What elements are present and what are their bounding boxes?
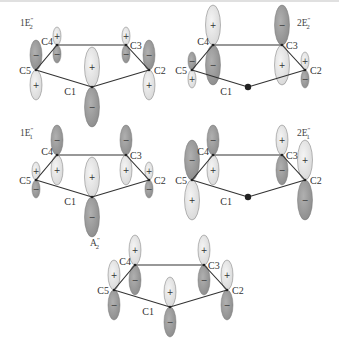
phase-sign: − <box>302 196 309 205</box>
atom-label-c1: C1 <box>64 86 76 97</box>
phase-sign: + <box>210 21 217 30</box>
phase-sign: + <box>33 81 40 90</box>
phase-sign: − <box>210 136 217 145</box>
phase-sign: − <box>224 301 231 310</box>
phase-sign: − <box>54 50 61 59</box>
atom-label-c3: C3 <box>286 150 298 161</box>
phase-sign: + <box>279 61 286 70</box>
phase-sign: + <box>224 271 231 280</box>
phase-sign: + <box>189 196 196 205</box>
atom-label-c1: C1 <box>220 86 232 97</box>
atom-label-c5: C5 <box>175 175 187 186</box>
phase-sign: − <box>146 51 153 60</box>
phase-sign: + <box>302 156 309 165</box>
phase-sign: + <box>54 32 61 41</box>
atom-c4 <box>56 44 59 47</box>
atom-label-c1: C1 <box>220 196 232 207</box>
phase-sign: + <box>123 166 130 175</box>
orbital-label: 2E″2 <box>297 16 311 30</box>
phase-sign: − <box>189 57 196 66</box>
phase-sign: − <box>89 213 96 222</box>
phase-sign: + <box>189 75 196 84</box>
phase-sign: + <box>132 246 139 255</box>
panel-1E1pp: 1E″1−+−++−+−+−C1C2C3C4C5 <box>19 125 165 237</box>
atom-c5 <box>191 69 194 72</box>
nodal-atom-c1 <box>245 84 251 90</box>
atom-c4 <box>212 154 215 157</box>
atom-label-c3: C3 <box>130 150 142 161</box>
phase-sign: + <box>302 57 309 66</box>
orbital-label: 1E″1 <box>20 126 34 140</box>
atom-c5 <box>191 179 194 182</box>
phase-sign: − <box>89 103 96 112</box>
phase-sign: − <box>279 21 286 30</box>
phase-sign: + <box>146 167 153 176</box>
atom-label-c4: C4 <box>41 36 53 47</box>
atom-c4 <box>56 154 59 157</box>
phase-sign: − <box>33 51 40 60</box>
atom-label-c5: C5 <box>19 175 31 186</box>
atom-c2 <box>226 289 229 292</box>
phase-sign: + <box>167 288 174 297</box>
phase-sign: − <box>33 185 40 194</box>
phase-sign: + <box>146 81 153 90</box>
atom-c5 <box>35 69 38 72</box>
atom-label-c3: C3 <box>130 40 142 51</box>
phase-sign: + <box>111 271 118 280</box>
phase-sign: + <box>210 166 217 175</box>
orbital-label: 1E″2 <box>20 16 34 30</box>
atom-label-c4: C4 <box>119 256 131 267</box>
phase-sign: − <box>302 75 309 84</box>
panel-2E2pp: 2E″2+−−+−++−C1C2C3C4C5 <box>175 5 321 97</box>
phase-sign: − <box>146 185 153 194</box>
orbital-label: 2E″1 <box>297 126 311 140</box>
phase-sign: − <box>201 276 208 285</box>
phase-sign: − <box>111 301 118 310</box>
phase-sign: − <box>123 50 130 59</box>
phase-sign: − <box>54 136 61 145</box>
phase-sign: + <box>54 166 61 175</box>
panel-1E2pp: 1E″2+−+−−+−++−C1C2C3C4C5 <box>19 16 165 127</box>
atom-label-c4: C4 <box>41 146 53 157</box>
atom-label-c4: C4 <box>197 146 209 157</box>
atom-c2 <box>304 69 307 72</box>
atom-c3 <box>125 154 128 157</box>
atom-label-c2: C2 <box>310 175 322 186</box>
atom-label-c5: C5 <box>19 65 31 76</box>
phase-sign: − <box>210 61 217 70</box>
phase-sign: − <box>189 156 196 165</box>
atom-c1 <box>91 86 94 89</box>
atom-label-c1: C1 <box>142 306 154 317</box>
phase-sign: + <box>279 136 286 145</box>
phase-sign: − <box>167 318 174 327</box>
atom-label-c3: C3 <box>286 40 298 51</box>
atom-label-c5: C5 <box>97 285 109 296</box>
atom-c5 <box>35 179 38 182</box>
phase-sign: + <box>201 246 208 255</box>
panel-2E1pp: 2E″1−++−−++−C1C2C3C4C5 <box>175 125 321 220</box>
atom-label-c2: C2 <box>154 65 166 76</box>
atom-c4 <box>212 44 215 47</box>
atom-c3 <box>203 264 206 267</box>
atom-c2 <box>304 179 307 182</box>
atom-c2 <box>148 69 151 72</box>
phase-sign: − <box>279 166 286 175</box>
mo-diagram: 1E″2+−+−−+−++−C1C2C3C4C52E″2+−−+−++−C1C2… <box>0 0 339 352</box>
panel-A2pp: A″2+−+−+−+−+−C1C2C3C4C5 <box>90 235 244 337</box>
atom-label-c4: C4 <box>197 36 209 47</box>
phase-sign: + <box>89 63 96 72</box>
atom-label-c1: C1 <box>64 196 76 207</box>
phase-sign: − <box>132 276 139 285</box>
atom-label-c2: C2 <box>232 285 244 296</box>
orbital-label: A″2 <box>90 236 100 250</box>
atom-c2 <box>148 179 151 182</box>
atom-c3 <box>281 154 284 157</box>
atom-c3 <box>281 44 284 47</box>
phase-sign: + <box>123 32 130 41</box>
nodal-atom-c1 <box>245 194 251 200</box>
atom-label-c2: C2 <box>154 175 166 186</box>
atom-label-c3: C3 <box>208 260 220 271</box>
atom-c1 <box>169 306 172 309</box>
phase-sign: + <box>89 173 96 182</box>
atom-label-c2: C2 <box>310 65 322 76</box>
